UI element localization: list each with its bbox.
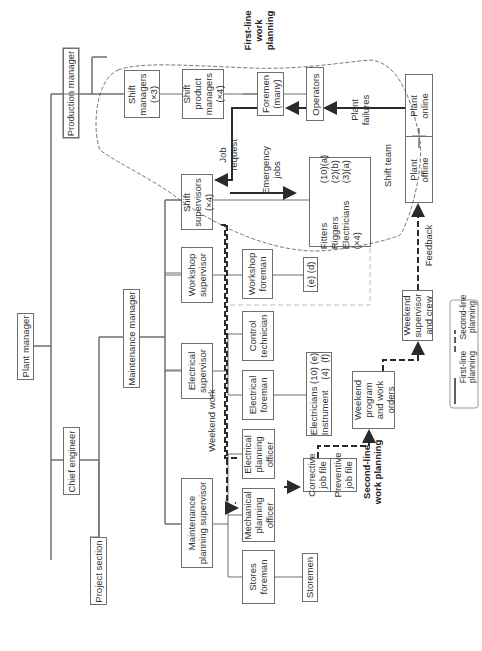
node-text: Workshop bbox=[186, 254, 197, 297]
node-plant-offline: Plantoffline bbox=[405, 136, 433, 203]
node-workshop-supervisor: Workshopsupervisor bbox=[181, 247, 213, 303]
node-text: Stores bbox=[248, 563, 259, 590]
node-shift-crew: Fitters(10)(a) Riggers(2)(b) Electrician… bbox=[309, 157, 371, 247]
node-text: product bbox=[192, 78, 203, 110]
node-text: technician bbox=[258, 315, 269, 358]
crew-row: Fitters(10)(a) bbox=[318, 155, 329, 250]
node-control-technician: Controltechnician bbox=[242, 311, 274, 361]
crew-count: (10)(a) bbox=[318, 155, 329, 184]
node-corrective-job-file: Correctivejob file bbox=[303, 458, 331, 492]
node-text: supervisors bbox=[192, 178, 203, 227]
label-weekend-work: Weekend work bbox=[204, 380, 218, 460]
node-text: officer bbox=[264, 502, 275, 528]
node-text: (×4) bbox=[203, 193, 214, 210]
node-production-manager: Production manager bbox=[63, 48, 79, 138]
node-text: supervisor bbox=[412, 294, 423, 338]
label-text: work planning bbox=[372, 440, 383, 504]
node-foremen: Foremen(many) bbox=[257, 72, 284, 116]
node-shift-managers: Shiftmanagers(×3) bbox=[124, 70, 160, 118]
label-text: Feedback bbox=[424, 224, 435, 266]
label-text: First-line bbox=[242, 10, 253, 50]
node-project-section: Project section bbox=[90, 537, 107, 605]
label-job-request: Jobrequest bbox=[215, 138, 241, 172]
crew-label: Riggers bbox=[329, 197, 340, 249]
node-plant-manager: Plant manager bbox=[17, 313, 34, 380]
label-text: Second-line bbox=[361, 445, 372, 499]
label-first-line-work-planning: First-lineworkplanning bbox=[240, 6, 276, 54]
node-text: Shift bbox=[181, 85, 192, 104]
node-shift-product-managers: Shiftproductmanagers(×4) bbox=[182, 69, 224, 119]
crew-row: Riggers(2)(b) bbox=[329, 160, 340, 249]
node-electrical-crew: Electricians (10) (e)Instrument (4) (f) bbox=[306, 352, 332, 436]
node-text: Control bbox=[247, 321, 258, 352]
crew-label: Electricians bbox=[340, 197, 351, 249]
node-text: Chief engineer bbox=[66, 430, 77, 492]
node-text: Electrical bbox=[242, 435, 253, 474]
node-text: Operators bbox=[310, 73, 321, 115]
crew-count: (3)(a) bbox=[340, 160, 351, 183]
node-text: online bbox=[419, 93, 430, 118]
org-diagram: .nb{position:absolute;box-sizing:border-… bbox=[0, 0, 482, 651]
legend-second-line: Second-lineplanning bbox=[458, 304, 478, 330]
legend-text: planning bbox=[468, 351, 477, 383]
label-text: Plant bbox=[349, 99, 360, 121]
node-plant-online: Plantonline bbox=[405, 74, 433, 137]
crew-row: (×4) bbox=[351, 197, 362, 249]
node-text: planning bbox=[253, 436, 264, 472]
label-text: failures bbox=[360, 95, 371, 126]
node-maintenance-manager: Maintenance manager bbox=[123, 289, 140, 388]
node-stores-foreman: Storesforeman bbox=[242, 550, 275, 604]
node-text: planning bbox=[253, 497, 264, 533]
label-text: planning bbox=[264, 10, 275, 50]
node-text: Foremen bbox=[260, 75, 271, 113]
node-text: Production manager bbox=[66, 50, 77, 136]
node-text: Shift bbox=[181, 192, 192, 211]
node-text: Shift bbox=[126, 85, 137, 104]
node-text: officer bbox=[264, 441, 275, 467]
label-plant-failures: Plantfailures bbox=[346, 90, 374, 130]
node-weekend-program: Weekendprogramand workorders bbox=[352, 371, 395, 429]
node-text: Preventive bbox=[333, 453, 344, 498]
node-text: Plant manager bbox=[20, 316, 31, 378]
label-text: Weekend work bbox=[206, 389, 217, 452]
node-text: planning supervisor bbox=[197, 482, 208, 564]
label-shift-team: Shift team bbox=[380, 135, 394, 195]
node-text: Project section bbox=[93, 540, 104, 602]
node-text: orders bbox=[385, 387, 396, 414]
label-text: Emergency bbox=[260, 146, 271, 194]
node-operators: Operators bbox=[306, 67, 324, 121]
node-text: foreman bbox=[258, 378, 269, 413]
node-text: Maintenance manager bbox=[126, 291, 137, 386]
node-electrical-planning-officer: Electricalplanningofficer bbox=[242, 429, 275, 479]
node-text: job file bbox=[317, 461, 328, 488]
node-text: (×4) bbox=[214, 85, 225, 102]
node-text: and work bbox=[374, 381, 385, 420]
node-text: Maintenance bbox=[186, 496, 197, 550]
label-text: work bbox=[253, 19, 264, 41]
label-text: Job bbox=[217, 147, 228, 162]
node-storemen: Storemen bbox=[302, 553, 318, 602]
node-shift-supervisors: Shiftsupervisors(×4) bbox=[181, 174, 213, 230]
node-text: offline bbox=[419, 157, 430, 182]
node-text: Corrective bbox=[306, 453, 317, 496]
node-text: foreman bbox=[258, 257, 269, 292]
node-chief-engineer: Chief engineer bbox=[63, 427, 80, 495]
label-text: jobs bbox=[271, 161, 282, 178]
node-text: Plant bbox=[408, 159, 419, 181]
node-text: (many) bbox=[271, 79, 282, 109]
node-workshop-foreman: Workshopforeman bbox=[242, 249, 273, 299]
crew-label: Fitters bbox=[318, 197, 329, 249]
legend-text: planning bbox=[468, 301, 477, 333]
label-text: Shift team bbox=[382, 144, 393, 187]
node-text: and crew bbox=[423, 296, 434, 335]
node-text: managers bbox=[137, 73, 148, 115]
node-text: Workshop bbox=[247, 253, 258, 296]
node-text: Instrument (4) (f) bbox=[319, 354, 330, 435]
node-text: (×3) bbox=[148, 85, 159, 102]
node-maintenance-planning-supervisor: Maintenanceplanning supervisor bbox=[181, 478, 213, 568]
node-text: Weekend bbox=[401, 296, 412, 336]
node-weekend-supervisor: Weekendsupervisorand crew bbox=[402, 290, 433, 341]
node-text: Electricians (10) (e) bbox=[308, 353, 319, 435]
node-text: program bbox=[363, 382, 374, 417]
node-text: supervisor bbox=[197, 253, 208, 297]
